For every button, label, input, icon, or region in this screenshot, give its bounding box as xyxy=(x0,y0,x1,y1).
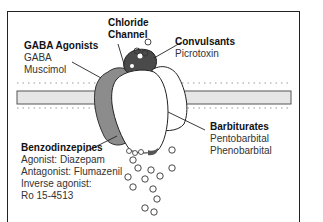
convulsants-label: Convulsants Picrotoxin xyxy=(175,36,235,60)
gaba-agonists-label: GABA Agonists GABA Muscimol xyxy=(24,40,98,76)
barbiturates-label: Barbiturates Pentobarbital Phenobarbital xyxy=(210,121,272,157)
chloride-ions-bottom xyxy=(125,147,175,215)
benzodiazepines-label: Benzodinzepines Agonist: Diazepam Antago… xyxy=(21,142,122,202)
chloride-channel-label: Chloride Channel xyxy=(108,17,149,41)
